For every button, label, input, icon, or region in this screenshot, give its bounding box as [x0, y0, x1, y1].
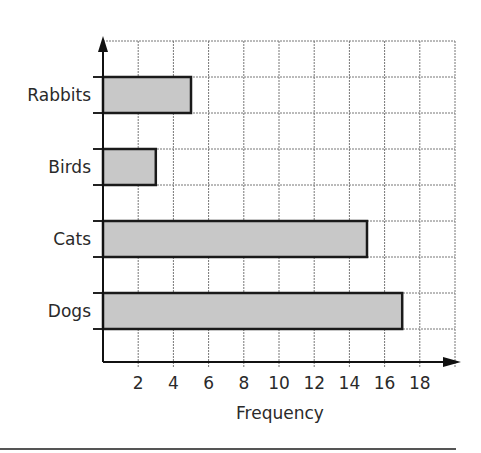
x-axis-label: Frequency [236, 403, 324, 423]
bars [103, 77, 402, 329]
category-label: Rabbits [27, 85, 91, 105]
x-tick-label: 18 [409, 373, 431, 393]
x-tick-label: 16 [374, 373, 396, 393]
bar-cats [103, 221, 367, 257]
category-label: Dogs [48, 301, 91, 321]
y-axis-arrow-icon [98, 36, 108, 52]
x-tick-label: 4 [168, 373, 179, 393]
bar-rabbits [103, 77, 191, 113]
bar-birds [103, 149, 156, 185]
bar-chart: RabbitsBirdsCatsDogs24681012141618Freque… [0, 0, 481, 453]
bar-dogs [103, 293, 402, 329]
x-tick-label: 8 [238, 373, 249, 393]
x-tick-label: 2 [133, 373, 144, 393]
category-label: Birds [48, 157, 91, 177]
x-tick-label: 12 [303, 373, 325, 393]
x-tick-label: 14 [339, 373, 361, 393]
x-tick-label: 6 [203, 373, 214, 393]
x-axis-arrow-icon [443, 357, 461, 367]
x-tick-label: 10 [268, 373, 290, 393]
category-label: Cats [53, 229, 91, 249]
